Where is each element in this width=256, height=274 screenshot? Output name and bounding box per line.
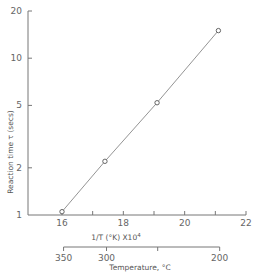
x-axis-title: 1/T (°K) X104	[91, 232, 141, 242]
y-tick-label: 10	[11, 53, 23, 63]
y-tick-label: 20	[11, 6, 23, 16]
plot-area	[60, 28, 221, 213]
data-point	[155, 101, 159, 105]
x-axis-title-main: 1/T (°K) X10	[91, 233, 137, 242]
y-tick-label: 5	[16, 100, 22, 110]
temperature-axis-title: Temperature, °C	[108, 263, 170, 272]
data-line	[62, 31, 218, 212]
temperature-tick-label: 300	[98, 253, 115, 263]
data-point	[103, 159, 107, 163]
reaction-time-chart: 1251020 16182022 350300200 Reaction time…	[0, 0, 256, 274]
temperature-tick-label: 200	[211, 253, 228, 263]
data-point	[60, 209, 64, 213]
x-tick-label: 18	[118, 218, 130, 228]
temperature-tick-label: 350	[55, 253, 72, 263]
data-point	[216, 28, 220, 32]
y-tick-label: 1	[16, 210, 22, 220]
x-tick-label: 16	[56, 218, 68, 228]
x-tick-label: 20	[179, 218, 191, 228]
x-tick-label: 22	[240, 218, 251, 228]
x-axis-title-exponent: 4	[137, 232, 141, 238]
y-axis-title: Reaction time τ (secs)	[6, 110, 15, 194]
y-tick-label: 2	[16, 163, 22, 173]
temperature-axis: 350300200	[55, 247, 229, 263]
